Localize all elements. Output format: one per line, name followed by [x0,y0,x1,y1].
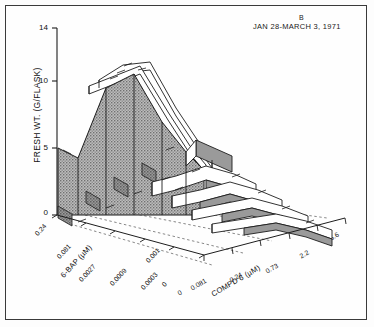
depth-axis-ticks [52,215,204,258]
figure-panel: B JAN 28-MARCH 3, 1971 FRESH WT. (G/FLAS… [0,0,374,327]
y-axis-group [52,28,57,215]
surface-plot [0,0,374,327]
